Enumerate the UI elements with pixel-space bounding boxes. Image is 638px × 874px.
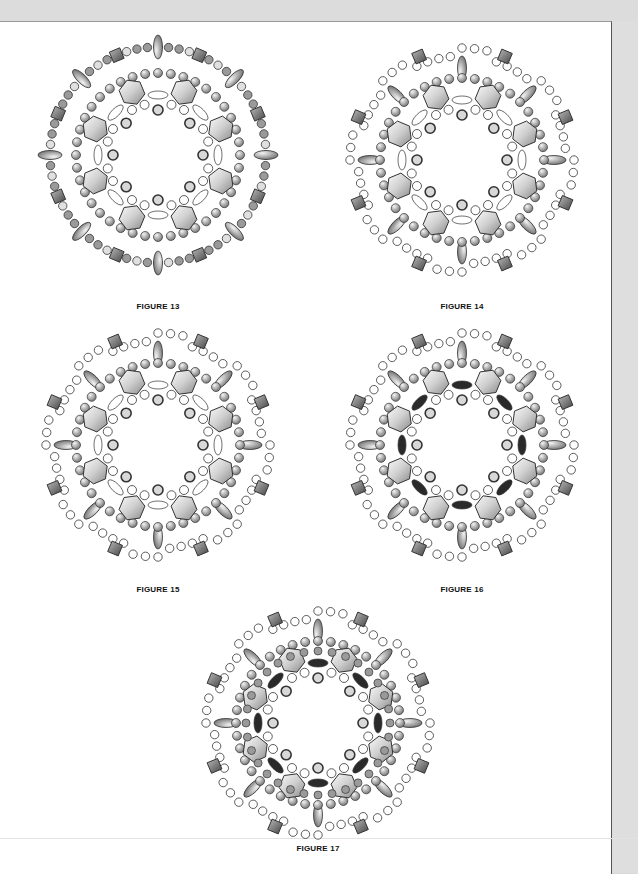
- round-bead: [247, 670, 256, 679]
- seed-bead: [244, 631, 252, 639]
- ring-bead: [268, 745, 277, 754]
- seed-bead: [202, 719, 210, 727]
- inner-drop-bead: [148, 211, 168, 219]
- seed-bead: [546, 211, 554, 219]
- ring-bead: [425, 187, 435, 197]
- seed-bead: [393, 237, 401, 245]
- round-bead: [166, 360, 175, 369]
- round-bead: [96, 383, 105, 392]
- round-bead: [391, 204, 400, 213]
- ring-bead: [288, 764, 297, 773]
- seed-bead: [559, 418, 567, 426]
- fill-bead: [365, 770, 373, 778]
- seed-bead: [559, 133, 567, 141]
- ring-bead: [167, 390, 176, 399]
- round-bead: [506, 89, 515, 98]
- seed-bead: [561, 429, 569, 437]
- ring-bead: [345, 750, 355, 760]
- round-bead: [72, 441, 81, 450]
- ring-bead: [300, 668, 309, 677]
- ring-bead: [359, 745, 368, 754]
- seed-bead: [393, 640, 401, 648]
- ring-bead: [471, 206, 480, 215]
- ring-bead: [508, 427, 517, 436]
- round-bead: [301, 799, 310, 808]
- seed-bead: [242, 496, 250, 504]
- round-bead: [458, 74, 467, 83]
- round-bead: [538, 453, 547, 462]
- seed-bead: [205, 694, 213, 702]
- ring-bead: [444, 390, 453, 399]
- seed-bead: [469, 544, 477, 552]
- ring-bead: [489, 408, 499, 418]
- seed-bead: [235, 506, 243, 514]
- round-bead: [445, 521, 454, 530]
- seed-bead: [314, 831, 322, 839]
- round-bead: [236, 441, 245, 450]
- ring-bead: [484, 110, 493, 119]
- seed-bead: [398, 346, 406, 354]
- fill-bead: [386, 719, 394, 727]
- ring-bead: [444, 105, 453, 114]
- ring-bead: [121, 408, 131, 418]
- seed-bead: [94, 241, 102, 249]
- ring-bead: [153, 485, 163, 495]
- fill-bead: [242, 719, 250, 727]
- seed-bead: [164, 258, 172, 266]
- round-bead: [400, 98, 409, 107]
- round-bead: [538, 168, 547, 177]
- inner-drop-bead: [308, 659, 328, 667]
- ring-bead: [121, 182, 131, 192]
- seed-bead: [537, 362, 545, 370]
- round-bead: [202, 374, 211, 383]
- seed-bead: [370, 511, 378, 519]
- seed-bead: [43, 428, 51, 436]
- ring-bead: [198, 150, 208, 160]
- round-bead: [540, 441, 549, 450]
- seed-bead: [166, 330, 174, 338]
- fill-bead: [354, 779, 362, 787]
- seed-bead: [354, 167, 362, 175]
- ring-bead: [412, 415, 421, 424]
- seed-bead: [379, 520, 387, 528]
- seed-bead: [513, 353, 521, 361]
- seed-bead: [165, 544, 173, 552]
- fill-bead: [381, 691, 389, 699]
- ring-bead: [340, 673, 349, 682]
- seed-bead: [131, 339, 139, 347]
- round-bead: [141, 521, 150, 530]
- round-bead: [371, 776, 380, 785]
- round-bead: [256, 661, 265, 670]
- right-margin: [612, 21, 638, 873]
- seed-bead: [241, 371, 249, 379]
- seed-bead: [402, 529, 410, 537]
- round-bead: [233, 731, 242, 740]
- seed-bead: [50, 452, 58, 460]
- seed-bead: [235, 640, 243, 648]
- round-bead: [409, 89, 418, 98]
- seed-bead: [45, 416, 53, 424]
- round-bead: [211, 208, 220, 217]
- round-bead: [166, 231, 175, 240]
- seed-bead: [89, 522, 97, 530]
- seed-bead: [66, 385, 74, 393]
- round-bead: [96, 498, 105, 507]
- round-bead: [234, 453, 243, 462]
- inner-drop-bead: [148, 381, 168, 389]
- seed-bead: [537, 77, 545, 85]
- round-bead: [154, 69, 163, 78]
- round-bead: [362, 652, 371, 661]
- fill-bead: [328, 790, 336, 798]
- seed-bead: [567, 181, 575, 189]
- seed-bead: [52, 464, 60, 472]
- drop-bead: [154, 251, 163, 275]
- round-bead: [301, 638, 310, 647]
- round-bead: [470, 360, 479, 369]
- ring-bead: [204, 427, 213, 436]
- seed-bead: [46, 140, 54, 148]
- ring-bead: [288, 673, 297, 682]
- seed-bead: [142, 337, 150, 345]
- ring-bead: [313, 763, 323, 773]
- round-bead: [220, 199, 229, 208]
- ring-bead: [180, 395, 189, 404]
